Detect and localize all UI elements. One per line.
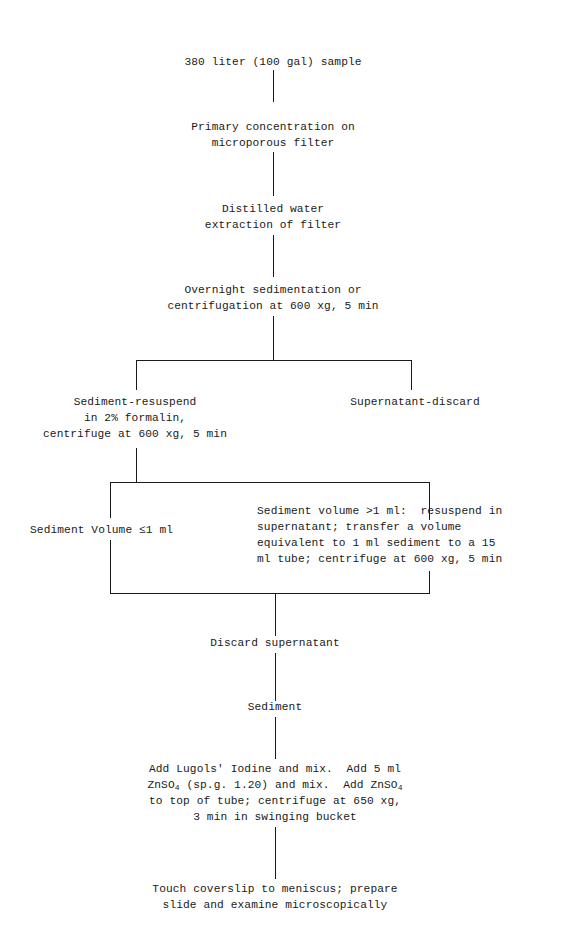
connector-primary-to-extraction [273, 152, 274, 196]
node-volume-small: Sediment Volume ≤1 ml [30, 522, 173, 538]
node-primary-concentration-line-1: Primary concentration on [133, 119, 413, 135]
volume-box-top [110, 482, 430, 483]
connector-sample-to-primary [273, 70, 274, 102]
node-extraction-line-1: Distilled water [133, 201, 413, 217]
node-volume-large-line-4: ml tube; centrifuge at 600 xg, 5 min [257, 551, 502, 567]
node-sediment-resuspend-line-1: Sediment-resuspend [10, 394, 260, 410]
connector-extraction-to-sedimentation [273, 235, 274, 277]
flotation-mid: (sp.g. 1.20) and mix. Add ZnSO [180, 779, 398, 791]
node-volume-large-line-2: supernatant; transfer a volume [257, 519, 461, 535]
volume-box-bottom [110, 593, 430, 594]
node-flotation-line-3: to top of tube; centrifuge at 650 xg, [95, 793, 455, 809]
node-primary-concentration-line-2: microporous filter [133, 135, 413, 151]
connector-box-to-discard [275, 594, 276, 636]
node-examine-line-1: Touch coverslip to meniscus; prepare [95, 881, 455, 897]
connector-sediment-to-flotation [275, 717, 276, 759]
node-flotation-line-4: 3 min in swinging bucket [95, 809, 455, 825]
flotation-sub-2: 4 [398, 783, 403, 792]
node-sediment-resuspend-line-3: centrifuge at 600 xg, 5 min [10, 426, 260, 442]
connector-resuspend-to-box [136, 448, 137, 482]
node-flotation-line-1: Add Lugols' Iodine and mix. Add 5 ml [95, 761, 455, 777]
node-discard-supernatant: Discard supernatant [135, 635, 415, 651]
volume-box-left-lower [110, 540, 111, 594]
node-sediment-resuspend-line-2: in 2% formalin, [10, 410, 260, 426]
node-volume-large-line-3: equivalent to 1 ml sediment to a 15 [257, 535, 495, 551]
node-sample: 380 liter (100 gal) sample [133, 54, 413, 70]
connector-flotation-to-examine [275, 827, 276, 879]
node-examine-line-2: slide and examine microscopically [95, 897, 455, 913]
split-bar-top [136, 360, 412, 361]
volume-box-right-lower [429, 571, 430, 594]
node-sediment: Sediment [135, 699, 415, 715]
connector-discard-to-sediment [275, 653, 276, 701]
node-volume-large-line-1: Sediment volume >1 ml: resuspend in [257, 503, 502, 519]
connector-split-left [136, 360, 137, 390]
flotation-zn-1: ZnSO [147, 779, 174, 791]
volume-box-left-upper [110, 482, 111, 518]
connector-split-right [411, 360, 412, 390]
node-sedimentation-line-1: Overnight sedimentation or [113, 282, 433, 298]
node-sedimentation-line-2: centrifugation at 600 xg, 5 min [113, 298, 433, 314]
node-flotation-line-2: ZnSO4 (sp.g. 1.20) and mix. Add ZnSO4 [95, 777, 455, 793]
node-supernatant-discard: Supernatant-discard [290, 394, 540, 410]
node-extraction-line-2: extraction of filter [133, 217, 413, 233]
connector-sedimentation-to-split [273, 316, 274, 360]
